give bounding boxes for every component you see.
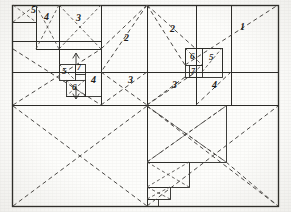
nested-boxes-top-left (13, 6, 102, 50)
rectangle-dissection-figure: 5 4 3 2 2 1 5 7 6 4 3 3 6 5 7 4 (0, 0, 291, 212)
label-right-6: 6 (190, 52, 195, 61)
nested-spiral-bottom-right (148, 106, 227, 207)
label-upper-right-2: 2 (170, 24, 175, 34)
label-mid-left-6: 6 (72, 83, 77, 92)
label-top-left-5: 5 (31, 5, 36, 15)
label-right-5: 5 (209, 53, 214, 62)
label-top-3: 3 (76, 13, 81, 23)
label-mid-left-5: 5 (62, 67, 67, 76)
label-top-4: 4 (44, 12, 49, 22)
spiral-rect-4 (148, 200, 159, 207)
label-right-4: 4 (212, 80, 217, 90)
figure-canvas (0, 0, 291, 212)
label-mid-4: 4 (91, 75, 96, 85)
dash-br-diag-e (226, 162, 278, 206)
label-mid-left-7: 7 (77, 64, 81, 72)
label-right-7: 7 (191, 68, 195, 76)
dash-mr-c (147, 77, 185, 105)
solid-partition-group (13, 6, 279, 207)
label-upper-right-1: 1 (240, 22, 245, 32)
label-center-3: 3 (128, 75, 133, 85)
label-upper-mid-2: 2 (124, 33, 129, 43)
dash-spiral-3b (147, 187, 170, 199)
label-right-3: 3 (172, 80, 177, 90)
dash-mid-2-right2 (147, 5, 185, 65)
